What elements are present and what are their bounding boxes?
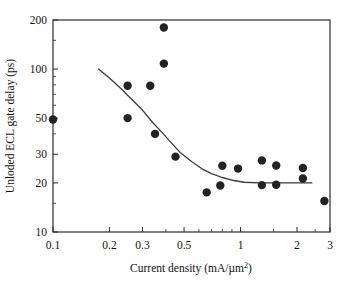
chart-figure: 0.10.20.30.5123 10203050100200 Current d… — [0, 0, 349, 286]
x-tick-label: 0.3 — [135, 239, 150, 251]
data-point — [171, 152, 179, 160]
x-axis-label: Current density (mA/µm2) — [130, 261, 252, 276]
data-point-group — [49, 23, 329, 205]
x-axis-ticks — [53, 227, 330, 232]
data-point — [272, 161, 280, 169]
data-point — [258, 156, 266, 164]
data-point — [258, 181, 266, 189]
data-point — [299, 164, 307, 172]
x-tick-label: 1 — [238, 239, 244, 251]
data-point — [123, 82, 131, 90]
data-point — [123, 114, 131, 122]
data-point — [49, 115, 57, 123]
data-point — [151, 130, 159, 138]
svg-text:Current density (mA/µm2): Current density (mA/µm2) — [130, 261, 252, 276]
plot-frame — [53, 20, 330, 232]
scatter-plot: 0.10.20.30.5123 10203050100200 Current d… — [0, 0, 349, 286]
data-point — [272, 181, 280, 189]
data-point — [216, 181, 224, 189]
x-tick-label: 3 — [327, 239, 333, 251]
data-point — [160, 59, 168, 67]
data-point — [320, 197, 328, 205]
data-point — [146, 82, 154, 90]
y-tick-label: 200 — [30, 14, 48, 26]
y-tick-label: 100 — [30, 63, 48, 75]
x-tick-label: 0.5 — [177, 239, 192, 251]
x-tick-label: 0.1 — [46, 239, 61, 251]
data-point — [299, 174, 307, 182]
x-tick-label: 0.2 — [102, 239, 117, 251]
y-tick-label: 10 — [36, 226, 48, 238]
data-point — [234, 164, 242, 172]
y-axis-label: Unloded ECL gate delay (ps) — [4, 59, 17, 194]
y-axis-tick-labels: 10203050100200 — [30, 14, 48, 238]
data-point — [160, 23, 168, 31]
data-point — [202, 188, 210, 196]
y-tick-label: 50 — [36, 112, 48, 124]
y-tick-label: 20 — [36, 177, 48, 189]
x-axis-tick-labels: 0.10.20.30.5123 — [46, 239, 333, 251]
y-tick-label: 30 — [36, 148, 48, 160]
y-axis-ticks — [53, 20, 58, 232]
data-point — [218, 162, 226, 170]
x-tick-label: 2 — [294, 239, 300, 251]
svg-text:Unloded ECL gate delay (ps): Unloded ECL gate delay (ps) — [4, 59, 17, 194]
